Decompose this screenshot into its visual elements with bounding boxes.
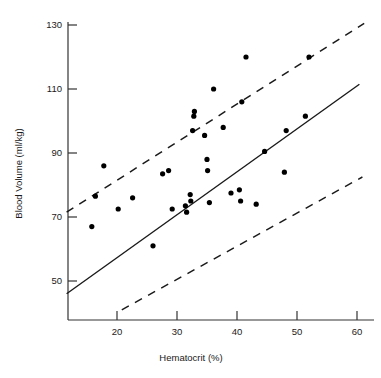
plot-canvas — [0, 0, 381, 378]
data-points — [89, 54, 311, 248]
data-point — [89, 224, 94, 229]
blood-volume-hematocrit-scatter-chart: 507090110130 2030405060 Blood Volume (ml… — [0, 0, 381, 378]
data-point — [228, 190, 233, 195]
data-point — [211, 86, 216, 91]
x-axis-ticks — [117, 311, 357, 320]
axes — [68, 22, 374, 320]
regression-line — [67, 84, 360, 294]
data-point — [160, 171, 165, 176]
y-tick-label: 110 — [28, 83, 62, 94]
data-point — [170, 206, 175, 211]
x-tick-label: 60 — [340, 326, 374, 337]
x-axis-title: Hematocrit (%) — [126, 352, 256, 363]
upper-limit-line — [67, 23, 365, 212]
data-point — [221, 125, 226, 130]
data-point — [191, 114, 196, 119]
data-point — [204, 157, 209, 162]
data-point — [166, 168, 171, 173]
data-point — [188, 192, 193, 197]
lower-limit-line — [122, 177, 363, 310]
data-point — [306, 54, 311, 59]
fitted-lines — [67, 23, 365, 309]
data-point — [303, 114, 308, 119]
data-point — [254, 202, 259, 207]
data-point — [93, 194, 98, 199]
data-point — [184, 210, 189, 215]
data-point — [205, 168, 210, 173]
data-point — [237, 187, 242, 192]
y-tick-label: 70 — [28, 211, 62, 222]
y-tick-label: 50 — [28, 275, 62, 286]
y-tick-label: 130 — [28, 19, 62, 30]
data-point — [239, 99, 244, 104]
data-point — [150, 243, 155, 248]
data-point — [284, 128, 289, 133]
x-tick-label: 20 — [100, 326, 134, 337]
data-point — [188, 198, 193, 203]
data-point — [243, 54, 248, 59]
y-axis-ticks — [68, 25, 77, 281]
data-point — [190, 128, 195, 133]
y-axis-title: Blood Volume (ml/kg) — [13, 109, 24, 239]
data-point — [262, 149, 267, 154]
data-point — [192, 109, 197, 114]
x-tick-label: 50 — [280, 326, 314, 337]
data-point — [116, 206, 121, 211]
data-point — [207, 200, 212, 205]
x-tick-label: 30 — [160, 326, 194, 337]
data-point — [101, 163, 106, 168]
data-point — [202, 133, 207, 138]
y-tick-label: 90 — [28, 147, 62, 158]
data-point — [282, 170, 287, 175]
x-tick-label: 40 — [220, 326, 254, 337]
data-point — [238, 198, 243, 203]
data-point — [183, 203, 188, 208]
data-point — [130, 195, 135, 200]
